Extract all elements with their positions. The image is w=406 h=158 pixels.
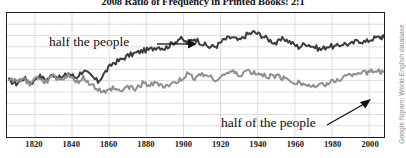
ngram-figure: 2008 Ratio of Frequency in Printed Books…	[0, 0, 406, 158]
x-axis-ticks: 1820184018601880190019201940196019802000	[6, 139, 385, 155]
annotation-half-the-people: half the people	[49, 35, 129, 49]
x-tick-label: 1820	[25, 139, 42, 149]
x-tick-label: 1940	[249, 139, 266, 149]
plot-frame: half the people half of the people	[6, 12, 385, 138]
x-tick-label: 1860	[100, 139, 117, 149]
annotation-arrow-gray-icon	[327, 99, 371, 125]
chart-title: 2008 Ratio of Frequency in Printed Books…	[0, 0, 406, 8]
attribution-text: Google Ngram: World English database	[398, 24, 405, 144]
x-tick-label: 1900	[175, 139, 192, 149]
annotation-arrow-dark-icon	[157, 37, 197, 51]
x-tick-label: 1980	[324, 139, 341, 149]
attribution-note: Google Ngram: World English database	[396, 16, 406, 144]
x-tick-label: 2000	[361, 139, 378, 149]
x-tick-label: 1920	[212, 139, 229, 149]
annotation-half-of-the-people: half of the people	[221, 116, 316, 130]
x-tick-label: 1840	[63, 139, 80, 149]
x-tick-label: 1960	[287, 139, 304, 149]
x-tick-label: 1880	[137, 139, 154, 149]
